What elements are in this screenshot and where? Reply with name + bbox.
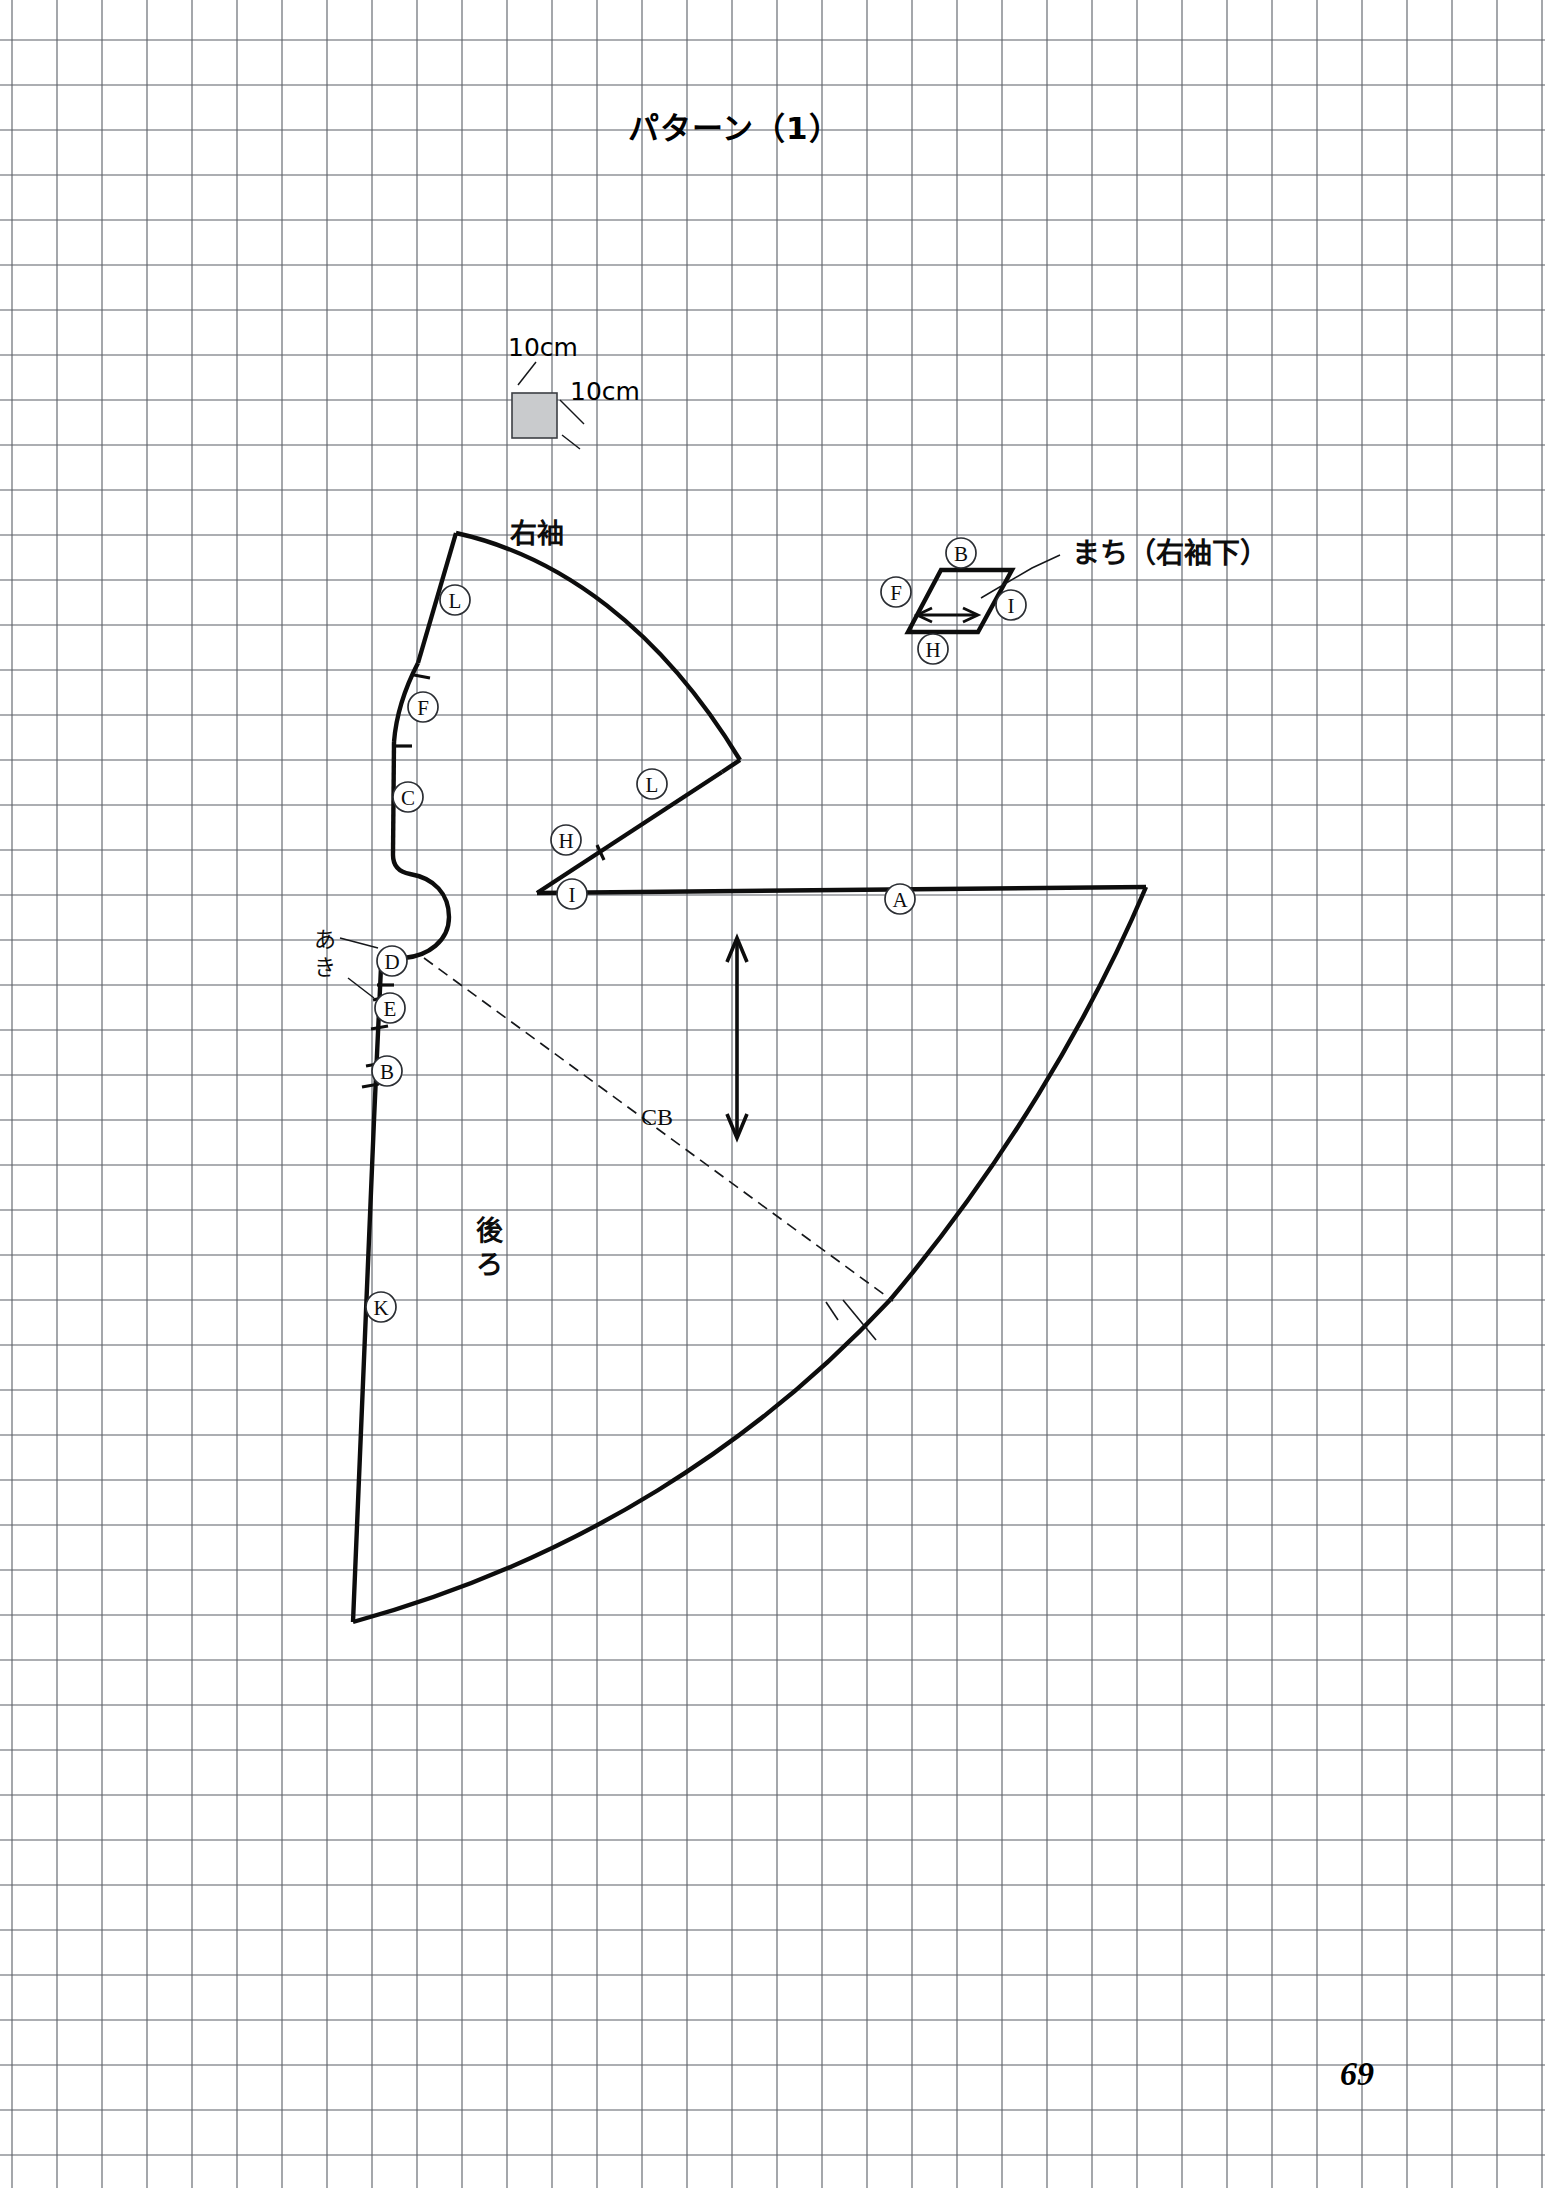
pattern-page: 右袖 [0,0,1545,2188]
page-title: パターン（1） [628,103,841,148]
sleeve-cap-curve [456,533,740,760]
notch-letter: F [417,696,429,720]
notch-badge-gusset-I: I [996,590,1026,620]
notch-badge-back-B: B [372,1056,402,1086]
notch-badge-sleeve-F: F [408,692,438,722]
opening-label-line2: き [314,955,336,980]
graph-paper-grid [0,0,1545,2188]
notch-letter: L [646,773,659,797]
notch-letter: I [569,883,576,907]
notch-letter: K [373,1296,388,1320]
gusset-title-leader [981,555,1060,598]
notch-letter: H [925,638,940,662]
sleeve-right-tip [722,760,740,772]
scale-swatch [512,393,557,438]
notch-badge-back-D: D [377,946,407,976]
opening-label-line1: あ [314,927,336,952]
scale-leader-top [518,362,536,385]
gusset-width-arrow [917,608,978,622]
notch-badge-sleeve-L-upper: L [440,585,470,615]
notch-letter: E [384,997,397,1021]
notch-letter: D [384,950,399,974]
center-back-label: CB [641,1104,673,1130]
notch-letter: H [558,829,573,853]
notch-badge-group: LFCLHIADEBKBFIH [366,538,1026,1322]
scale-label-right: 10cm [570,377,640,406]
notch-letter: C [401,786,415,810]
grain-line-arrow [727,938,747,1138]
notch-badge-sleeve-H: H [551,825,581,855]
pattern-sheet-svg: 右袖 [0,0,1545,2188]
notch-badge-back-K: K [366,1292,396,1322]
back-top-line [537,887,1146,893]
notch-badge-gusset-H: H [918,634,948,664]
notch-badge-back-A: A [885,884,915,914]
notch-letter: I [1008,594,1015,618]
right-sleeve-label: 右袖 [510,518,564,549]
notch-letter: F [890,581,902,605]
notch-letter: L [449,589,462,613]
notch-badge-sleeve-L-lower: L [637,769,667,799]
notch-badge-back-E: E [375,993,405,1023]
back-label-char2: ろ [476,1249,503,1280]
sleeve-tick-1 [414,675,430,678]
back-hem-curve [353,1300,890,1622]
scale-label-top: 10cm [508,333,578,362]
aki-leader-2 [348,978,374,998]
notch-badge-sleeve-I: I [557,879,587,909]
opening-tick-3 [371,1026,388,1029]
notch-badge-gusset-F: F [881,577,911,607]
notch-badge-gusset-B: B [946,538,976,568]
page-number: 69 [1340,2055,1374,2093]
notch-letter: B [380,1060,394,1084]
back-side-seam [890,887,1146,1300]
hem-notch-tick-2 [826,1302,838,1320]
gusset-title: まち（右袖下） [1072,537,1268,570]
notch-letter: B [954,542,968,566]
notch-letter: A [892,888,908,912]
back-label-char1: 後 [476,1215,504,1246]
notch-badge-sleeve-C: C [393,782,423,812]
scale-leader-right-2 [562,435,580,449]
